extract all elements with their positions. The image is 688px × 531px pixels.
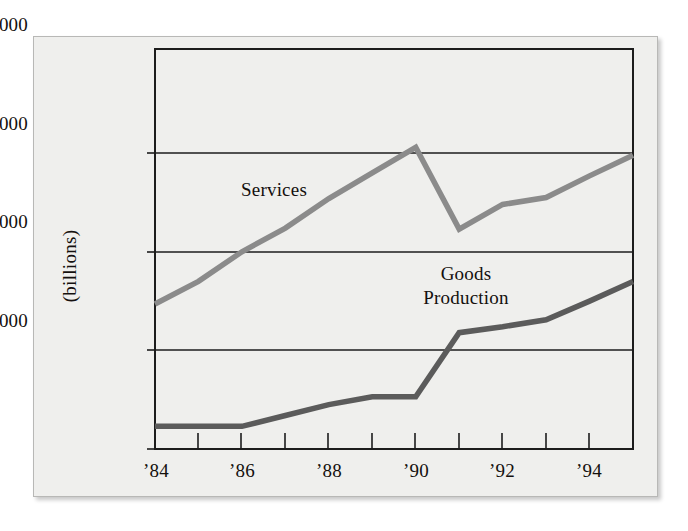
y-tick-label-3000: $3,000 bbox=[0, 113, 28, 135]
x-tick-label-92: ’92 bbox=[472, 460, 532, 482]
x-tick-label-86: ’86 bbox=[212, 460, 272, 482]
goods-label-line-1: Goods bbox=[441, 263, 492, 284]
goods-label-line-2: Production bbox=[423, 287, 508, 308]
series-label-services: Services bbox=[209, 178, 339, 202]
series-label-goods-production: Goods Production bbox=[386, 262, 546, 310]
y-tick-label-2000: $2,000 bbox=[0, 211, 28, 233]
x-tick-label-94: ’94 bbox=[559, 460, 619, 482]
y-tick-label-1000: $1,000 bbox=[0, 310, 28, 332]
y-axis-title: (billions) bbox=[59, 206, 81, 326]
x-tick-label-88: ’88 bbox=[299, 460, 359, 482]
chart-figure-panel: (billions) $4,000 $3,000 $2,000 $1,000 ’… bbox=[33, 36, 658, 497]
y-tick-label-4000: $4,000 bbox=[0, 14, 28, 36]
x-tick-label-90: ’90 bbox=[386, 460, 446, 482]
x-tick-label-84: ’84 bbox=[126, 460, 186, 482]
